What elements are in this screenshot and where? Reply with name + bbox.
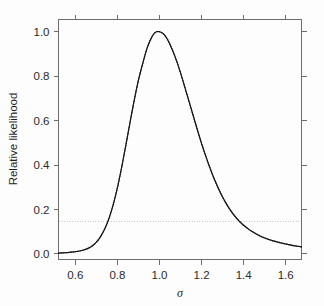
y-tick-label: 0.4 bbox=[34, 159, 51, 171]
x-tick-label: 0.8 bbox=[109, 269, 125, 281]
y-axis-ticks-right bbox=[302, 32, 307, 254]
y-tick-label: 0.8 bbox=[34, 70, 50, 82]
x-tick-label: 1.6 bbox=[278, 269, 294, 281]
y-tick-label: 0.0 bbox=[34, 248, 50, 260]
x-tick-label: 1.4 bbox=[236, 269, 253, 281]
likelihood-plot-figure: 0.60.81.01.21.41.6 0.00.20.40.60.81.0 σ … bbox=[0, 0, 324, 306]
y-tick-label: 0.6 bbox=[34, 115, 50, 127]
plot-frame bbox=[59, 20, 302, 260]
likelihood-curve-dots bbox=[59, 32, 302, 254]
likelihood-curve bbox=[59, 32, 302, 254]
x-tick-label: 1.2 bbox=[194, 269, 210, 281]
x-axis-ticks-top bbox=[75, 15, 285, 20]
x-tick-label: 1.0 bbox=[151, 269, 167, 281]
y-tick-label: 0.2 bbox=[34, 204, 50, 216]
x-tick-label: 0.6 bbox=[67, 269, 83, 281]
x-axis-ticks: 0.60.81.01.21.41.6 bbox=[67, 260, 293, 281]
x-axis-title: σ bbox=[177, 286, 184, 300]
y-axis-ticks: 0.00.20.40.60.81.0 bbox=[34, 26, 59, 260]
chart-canvas: 0.60.81.01.21.41.6 0.00.20.40.60.81.0 σ … bbox=[0, 0, 324, 306]
y-tick-label: 1.0 bbox=[34, 26, 50, 38]
y-axis-title: Relative likelihood bbox=[7, 93, 19, 186]
